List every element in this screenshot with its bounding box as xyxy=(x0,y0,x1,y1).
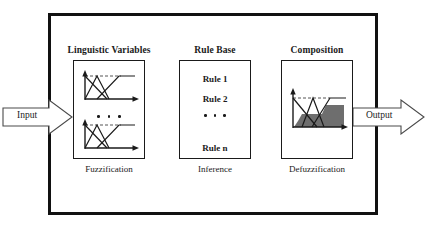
ellipsis-dot xyxy=(223,114,226,117)
ellipsis-dot xyxy=(204,114,207,117)
stage-title-linguistic-variables: Linguistic Variables xyxy=(60,44,158,56)
stage-caption-defuzzification: Defuzzification xyxy=(268,163,366,176)
stage-caption-fuzzification: Fuzzification xyxy=(60,163,158,176)
stage-caption-inference: Inference xyxy=(166,163,264,176)
stage-inference: Rule Base Rule 1 Rule 2 Rule n Inference xyxy=(166,44,264,176)
panel-composition xyxy=(281,60,353,159)
stage-title-composition: Composition xyxy=(268,44,366,56)
panel-linguistic-variables xyxy=(73,60,145,159)
membership-plot-bottom xyxy=(79,118,141,158)
rule-list: Rule 1 Rule 2 Rule n xyxy=(180,61,250,158)
aggregated-output-plot-svg xyxy=(286,83,350,137)
rule-ellipsis xyxy=(204,114,226,117)
diagram-canvas: Input Output Linguistic Variables xyxy=(0,0,427,233)
aggregated-output-plot xyxy=(286,83,350,141)
stage-fuzzification: Linguistic Variables xyxy=(60,44,158,176)
ellipsis-dot xyxy=(214,114,217,117)
membership-plot-top-svg xyxy=(79,69,141,105)
rule-item: Rule 2 xyxy=(203,94,228,105)
membership-plot-bottom-svg xyxy=(79,118,141,154)
output-label: Output xyxy=(366,109,392,121)
rule-item: Rule 1 xyxy=(203,74,228,85)
stage-title-rule-base: Rule Base xyxy=(166,44,264,56)
input-label: Input xyxy=(17,109,37,121)
rule-item: Rule n xyxy=(202,143,227,154)
membership-plot-top xyxy=(79,69,141,109)
stage-composition: Composition xyxy=(268,44,366,176)
panel-rule-base: Rule 1 Rule 2 Rule n xyxy=(179,60,251,159)
